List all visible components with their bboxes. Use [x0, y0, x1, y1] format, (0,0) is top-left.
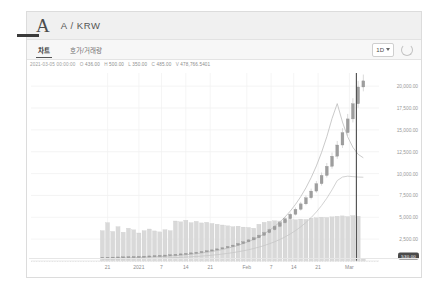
ohlc-high-value: 500.00: [109, 62, 124, 67]
brand-logo-icon: A: [36, 16, 50, 35]
ohlc-close-value: 485.00: [156, 62, 171, 67]
ohlc-legend: 2021-03-05 00:00:00 O 436.00 H 500.00 L …: [30, 62, 210, 67]
tab-bar: 차트 호가/거래량 1D: [27, 40, 421, 60]
ohlc-high-key: H: [104, 62, 107, 67]
pair-title: A / KRW: [61, 20, 101, 31]
y-axis-tick-label: 5,000.00: [399, 215, 418, 220]
toolbar-right: 1D: [372, 43, 413, 57]
x-axis-tick-label: 7: [270, 264, 273, 270]
y-axis: 2,500.005,000.007,500.0010,000.0012,500.…: [379, 69, 419, 275]
x-axis-tick-label: 21: [105, 264, 111, 270]
panel-header: A A / KRW: [27, 12, 421, 40]
x-axis-tick-label: 2021: [133, 264, 144, 270]
x-axis-tick-label: Mar: [345, 264, 354, 270]
ohlc-open-key: O: [80, 62, 84, 67]
y-axis-tick-label: 2,500.00: [399, 237, 418, 242]
ohlc-low-value: 350.00: [132, 62, 147, 67]
x-axis-tick-label: Feb: [242, 264, 251, 270]
refresh-icon[interactable]: [401, 44, 413, 56]
ohlc-timestamp: 2021-03-05 00:00:00: [30, 62, 76, 67]
x-axis: 21202171421Feb71421Mar: [29, 258, 419, 275]
tab-orderbook[interactable]: 호가/거래량: [68, 40, 104, 59]
ohlc-volume-value: 478,766.5401: [180, 62, 210, 67]
y-axis-tick-label: 17,500.00: [397, 105, 418, 110]
ohlc-volume-key: V: [176, 62, 179, 67]
x-axis-tick-label: 14: [183, 264, 189, 270]
x-axis-tick-label: 7: [160, 264, 163, 270]
plot-svg: [29, 69, 421, 277]
ohlc-low-key: L: [128, 62, 131, 67]
left-stub-line: [17, 34, 39, 37]
x-axis-tick-label: 21: [207, 264, 213, 270]
timeframe-value: 1D: [376, 47, 384, 53]
y-axis-tick-label: 15,000.00: [397, 127, 418, 132]
ohlc-open-value: 436.00: [85, 62, 100, 67]
chevron-down-icon: [386, 48, 390, 51]
y-axis-tick-label: 7,500.00: [399, 193, 418, 198]
y-axis-tick-label: 12,500.00: [397, 149, 418, 154]
timeframe-select[interactable]: 1D: [372, 43, 394, 57]
ohlc-close-key: C: [152, 62, 155, 67]
x-axis-tick-label: 14: [291, 264, 297, 270]
tab-chart[interactable]: 차트: [36, 40, 52, 59]
chart-panel: A A / KRW 차트 호가/거래량 1D 2021-03-05 00:00:…: [26, 11, 422, 278]
app-screen: A A / KRW 차트 호가/거래량 1D 2021-03-05 00:00:…: [0, 0, 447, 299]
y-axis-tick-label: 10,000.00: [397, 171, 418, 176]
plot-area[interactable]: [29, 69, 419, 275]
x-axis-tick-label: 21: [315, 264, 321, 270]
y-axis-tick-label: 20,000.00: [397, 84, 418, 89]
